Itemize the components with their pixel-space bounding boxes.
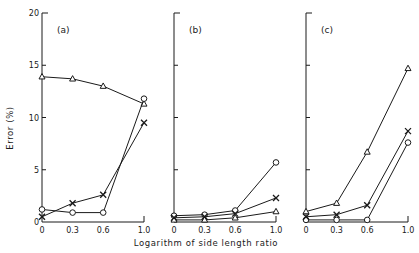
y-tick-label: 15 [29, 61, 39, 70]
circle-marker-icon [334, 217, 340, 223]
series-line-cross [306, 131, 408, 217]
x-tick-label: 0.6 [361, 226, 374, 235]
panel-label: (b) [189, 25, 202, 35]
panel-2: 00.30.61.0(c) [303, 13, 414, 235]
x-axis-title: Logarithm of side length ratio [134, 238, 278, 248]
x-tick-label: 0.3 [198, 226, 211, 235]
panel-0: 0510152000.30.61.0(a) [29, 9, 151, 235]
x-tick-label: 0.3 [66, 226, 79, 235]
series-line-circle [42, 99, 144, 213]
series-line-circle [174, 162, 276, 215]
circle-marker-icon [39, 207, 45, 213]
series-line-cross [42, 123, 144, 217]
y-tick-label: 20 [29, 9, 39, 18]
triangle-marker-icon [405, 65, 411, 70]
x-tick-label: 0 [303, 226, 308, 235]
panel-label: (c) [321, 25, 333, 35]
circle-marker-icon [70, 210, 76, 216]
y-tick-label: 0 [34, 218, 39, 227]
series-line-triangle [42, 77, 144, 104]
x-tick-label: 1.0 [270, 226, 283, 235]
cross-marker-icon [364, 202, 370, 208]
triangle-marker-icon [39, 74, 45, 79]
circle-marker-icon [141, 96, 147, 102]
error-chart-figure: 0510152000.30.61.0(a)00.30.61.0(b)00.30.… [0, 0, 419, 253]
series-line-triangle [306, 68, 408, 211]
triangle-marker-icon [334, 200, 340, 205]
cross-marker-icon [70, 200, 76, 206]
x-tick-label: 1.0 [138, 226, 151, 235]
y-axis-title: Error (%) [5, 106, 15, 150]
series-line-triangle [174, 212, 276, 220]
panel-1: 00.30.61.0(b) [171, 13, 282, 235]
x-tick-label: 1.0 [402, 226, 415, 235]
chart-panels: 0510152000.30.61.0(a)00.30.61.0(b)00.30.… [29, 9, 415, 235]
circle-marker-icon [405, 140, 411, 146]
circle-marker-icon [364, 217, 370, 223]
y-tick-label: 5 [34, 166, 39, 175]
circle-marker-icon [273, 160, 279, 166]
cross-marker-icon [405, 128, 411, 134]
cross-marker-icon [273, 195, 279, 201]
panel-label: (a) [57, 25, 70, 35]
triangle-marker-icon [273, 208, 279, 213]
x-tick-label: 0 [171, 226, 176, 235]
x-tick-label: 0 [39, 226, 44, 235]
cross-marker-icon [100, 192, 106, 198]
x-tick-label: 0.6 [97, 226, 110, 235]
triangle-marker-icon [364, 149, 370, 154]
cross-marker-icon [141, 120, 147, 126]
x-tick-label: 0.6 [229, 226, 242, 235]
circle-marker-icon [100, 210, 106, 216]
y-tick-label: 10 [29, 114, 39, 123]
x-tick-label: 0.3 [330, 226, 343, 235]
